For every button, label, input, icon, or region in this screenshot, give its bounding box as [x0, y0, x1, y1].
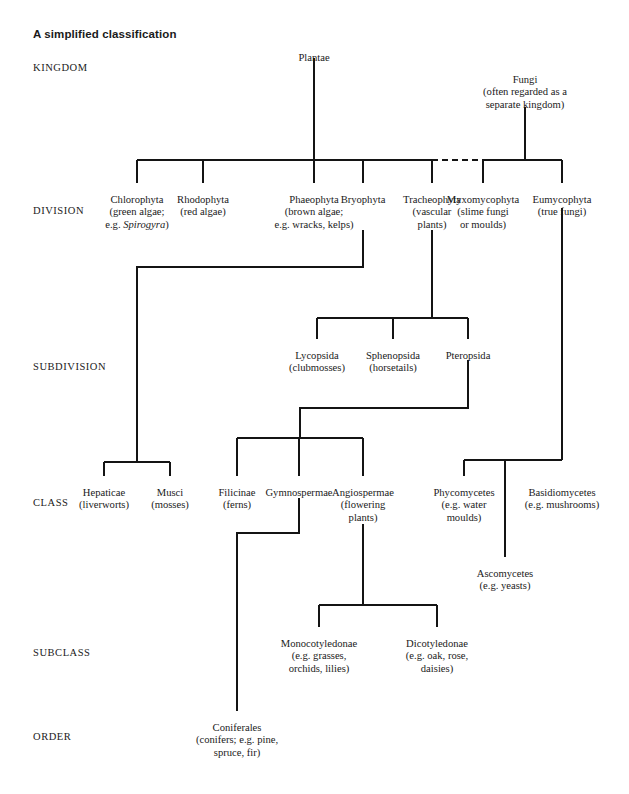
taxon-filicinae: Filicinae(ferns) — [218, 487, 255, 512]
taxon-basidiomycetes: Basidiomycetes(e.g. mushrooms) — [525, 487, 599, 512]
edge-gymnospermae-to-order — [237, 498, 299, 711]
rank-label-kingdom: KINGDOM — [33, 62, 88, 73]
taxon-sphenopsida: Sphenopsida(horsetails) — [366, 350, 420, 375]
taxon-coniferales: Coniferales(conifers; e.g. pine,spruce, … — [196, 722, 278, 759]
rank-label-order: ORDER — [33, 731, 71, 742]
taxon-gymnospermae: Gymnospermae — [265, 487, 332, 499]
taxon-myxomycophyta: Myxomycophyta(slime fungior moulds) — [447, 194, 519, 231]
taxon-musci: Musci(mosses) — [151, 487, 189, 512]
taxon-chlorophyta: Chlorophyta(green algae;e.g. Spirogyra) — [105, 194, 168, 231]
taxon-ascomycetes: Ascomycetes(e.g. yeasts) — [477, 568, 533, 593]
taxon-dicotyledonae: Dicotyledonae(e.g. oak, rose,daisies) — [406, 638, 468, 675]
taxon-pteropsida: Pteropsida — [446, 350, 491, 362]
taxon-bryophyta: Bryophyta — [341, 194, 386, 206]
rank-label-division: DIVISION — [33, 205, 84, 216]
taxon-fungi: Fungi(often regarded as aseparate kingdo… — [483, 74, 567, 111]
taxon-eumycophyta: Eumycophyta(true fungi) — [533, 194, 592, 219]
taxon-hepaticae: Hepaticae(liverworts) — [79, 487, 129, 512]
edge-bryophyta-to-class — [137, 230, 363, 462]
taxon-monocotyledonae: Monocotyledonae(e.g. grasses,orchids, li… — [281, 638, 358, 675]
rank-label-subdivision: SUBDIVISION — [33, 361, 106, 372]
rank-label-subclass: SUBCLASS — [33, 647, 91, 658]
taxon-rhodophyta: Rhodophyta(red algae) — [177, 194, 229, 219]
rank-label-class: CLASS — [33, 497, 68, 508]
taxon-lycopsida: Lycopsida(clubmosses) — [289, 350, 345, 375]
taxon-angiospermae: Angiospermae(floweringplants) — [332, 487, 394, 524]
taxon-plantae: Plantae — [298, 52, 329, 64]
page-title: A simplified classification — [33, 28, 177, 40]
classification-diagram: A simplified classification KINGDOMDIVIS… — [0, 0, 629, 794]
taxon-phycomycetes: Phycomycetes(e.g. watermoulds) — [433, 487, 494, 524]
